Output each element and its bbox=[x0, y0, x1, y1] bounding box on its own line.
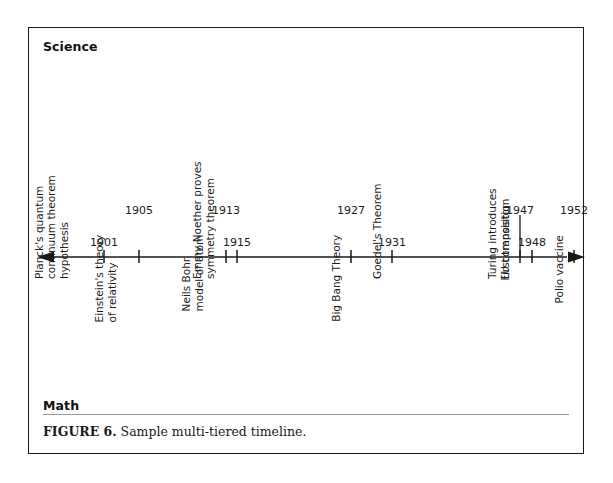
figure-caption-text: Sample multi-tiered timeline. bbox=[117, 424, 307, 439]
event-label-line: symmetry theorem bbox=[204, 161, 217, 279]
event-label-line: Turing introduces bbox=[486, 188, 499, 279]
event-label-line: continuum theorem bbox=[45, 175, 58, 279]
year-label-1905: 1905 bbox=[125, 204, 153, 217]
year-label-1927: 1927 bbox=[337, 204, 365, 217]
event-label-line: Emmy Noether proves bbox=[191, 161, 204, 279]
event-label-line: Big Bang Theory bbox=[330, 235, 343, 322]
event-label-line: Planck's quantum bbox=[33, 175, 46, 279]
year-label-1915: 1915 bbox=[223, 236, 251, 249]
year-label-1913: 1913 bbox=[212, 204, 240, 217]
caption-divider bbox=[43, 414, 569, 415]
event-label-1931: Goedel's Theorem bbox=[371, 184, 384, 279]
event-label-line: Polio vaccine bbox=[553, 235, 566, 303]
event-label-line: hypothesis bbox=[58, 175, 71, 279]
tier-heading-science: Science bbox=[43, 39, 98, 54]
event-label-1901: Planck's quantumcontinuum theoremhypothe… bbox=[33, 175, 71, 279]
event-label-line: Goedel's Theorem bbox=[371, 184, 384, 279]
event-label-line: LU composition bbox=[499, 188, 512, 279]
event-label-1948: Turing introducesLU composition bbox=[486, 188, 511, 279]
figure-container: Science Math 1901Planck's quantumcontinu… bbox=[28, 27, 584, 454]
tier-heading-math: Math bbox=[43, 398, 79, 413]
figure-caption: FIGURE 6. Sample multi-tiered timeline. bbox=[43, 424, 563, 439]
event-label-1952: Polio vaccine bbox=[553, 235, 566, 303]
event-label-line: Einstein's theory bbox=[93, 235, 106, 323]
event-label-line: of relativity bbox=[106, 235, 119, 323]
event-label-1905: Einstein's theoryof relativity bbox=[93, 235, 118, 323]
event-label-1915: Emmy Noether provessymmetry theorem bbox=[191, 161, 216, 279]
figure-caption-label: FIGURE 6. bbox=[43, 424, 117, 439]
year-label-1948: 1948 bbox=[518, 236, 546, 249]
event-label-1927: Big Bang Theory bbox=[330, 235, 343, 322]
year-label-1952: 1952 bbox=[560, 204, 588, 217]
arrow-right-icon bbox=[568, 252, 585, 263]
